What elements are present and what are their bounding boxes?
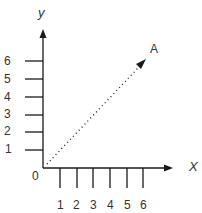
vector-a-arrowhead-icon — [136, 59, 146, 69]
y-tick-label-4: 4 — [4, 91, 11, 103]
y-tick-label-1: 1 — [5, 143, 12, 155]
y-tick-label-3: 3 — [4, 108, 11, 120]
vector-a-line — [47, 67, 139, 164]
y-axis-name: y — [38, 6, 45, 19]
axes-graphic — [0, 0, 202, 213]
y-axis-arrow-icon — [40, 29, 47, 38]
y-tick-label-2: 2 — [4, 125, 11, 137]
x-tick-label-1: 1 — [57, 199, 64, 211]
x-axis-arrow-icon — [164, 165, 173, 172]
x-tick-label-3: 3 — [90, 199, 97, 211]
origin-label: 0 — [32, 170, 39, 182]
x-tick-label-4: 4 — [107, 199, 114, 211]
y-ticks — [25, 61, 43, 150]
x-tick-label-2: 2 — [73, 199, 80, 211]
x-ticks — [60, 168, 143, 188]
x-tick-label-5: 5 — [124, 199, 131, 211]
y-tick-label-5: 5 — [4, 73, 11, 85]
vector-a-label: A — [150, 43, 158, 55]
vector-diagram: y X A 0 6 5 4 3 2 1 1 2 3 4 5 6 — [0, 0, 202, 213]
y-tick-label-6: 6 — [4, 55, 11, 67]
x-axis-name: X — [189, 160, 198, 173]
x-tick-label-6: 6 — [140, 199, 147, 211]
